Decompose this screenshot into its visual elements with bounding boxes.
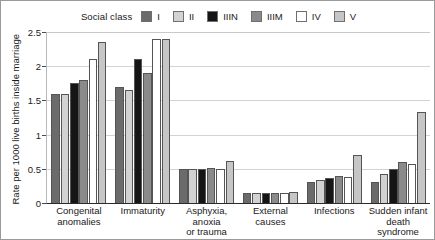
chart-legend: Social class I II IIIN IIIM IV V	[1, 11, 435, 22]
bar-iv[interactable]	[344, 177, 353, 203]
bar-ii[interactable]	[125, 90, 134, 203]
bar-group	[302, 32, 366, 203]
bar-v[interactable]	[417, 112, 426, 203]
bar-iiim[interactable]	[207, 168, 216, 203]
x-tick-label: Infections	[302, 206, 366, 238]
y-tick-label: 2.5	[28, 27, 41, 38]
y-tick-label: 2	[36, 61, 41, 72]
bar-ii[interactable]	[380, 174, 389, 203]
legend-swatch-iiin	[207, 11, 218, 22]
bar-iiim[interactable]	[271, 193, 280, 203]
legend-label-iiim: IIIM	[267, 11, 283, 22]
chart-figure: Social class I II IIIN IIIM IV V Rate pe…	[0, 0, 435, 240]
x-tick-label: Immaturity	[111, 206, 175, 238]
bar-iiin[interactable]	[134, 59, 143, 203]
bar-iv[interactable]	[408, 164, 417, 203]
x-tick-label: Asphyxia, anoxia or trauma	[175, 206, 239, 238]
bar-groups	[47, 32, 430, 203]
legend-title: Social class	[81, 11, 132, 22]
bar-group	[366, 32, 430, 203]
bar-iiim[interactable]	[398, 162, 407, 203]
legend-entry-iiim: IIIM	[251, 11, 283, 22]
bar-i[interactable]	[115, 87, 124, 203]
bar-i[interactable]	[371, 182, 380, 203]
y-tick-label: 1.5	[28, 95, 41, 106]
legend-label-iv: IV	[312, 11, 321, 22]
bar-ii[interactable]	[252, 193, 261, 203]
bar-v[interactable]	[289, 192, 298, 203]
bar-ii[interactable]	[316, 180, 325, 203]
legend-label-ii: II	[189, 11, 194, 22]
bar-iiin[interactable]	[389, 169, 398, 203]
legend-entry-v: V	[334, 11, 356, 22]
bar-iv[interactable]	[280, 193, 289, 203]
bar-v[interactable]	[226, 161, 235, 203]
bar-i[interactable]	[51, 94, 60, 203]
bar-iv[interactable]	[216, 169, 225, 203]
bar-group	[47, 32, 111, 203]
legend-label-v: V	[350, 11, 356, 22]
legend-label-iiin: IIIN	[223, 11, 238, 22]
y-tick-label: 0.5	[28, 163, 41, 174]
x-tick-label: Congenital anomalies	[47, 206, 111, 238]
bar-iiim[interactable]	[143, 73, 152, 203]
bar-iiim[interactable]	[335, 176, 344, 203]
bar-i[interactable]	[243, 193, 252, 203]
x-tick-label: Sudden infant death syndrome	[366, 206, 430, 238]
y-tick-label: 1	[36, 129, 41, 140]
x-axis-labels: Congenital anomaliesImmaturityAsphyxia, …	[47, 206, 430, 238]
legend-swatch-iv	[296, 11, 307, 22]
y-axis-ticks: 00.511.522.5	[1, 32, 47, 203]
x-tick-label: External causes	[238, 206, 302, 238]
bar-group	[111, 32, 175, 203]
bar-i[interactable]	[179, 169, 188, 203]
bar-iv[interactable]	[89, 59, 98, 203]
bar-group	[175, 32, 239, 203]
legend-entry-i: I	[141, 11, 160, 22]
y-tick-label: 0	[36, 198, 41, 209]
plot-area	[47, 32, 430, 203]
bar-ii[interactable]	[61, 94, 70, 203]
bar-v[interactable]	[162, 39, 171, 203]
bar-group	[238, 32, 302, 203]
bar-v[interactable]	[98, 42, 107, 203]
legend-swatch-iiim	[251, 11, 262, 22]
legend-swatch-ii	[173, 11, 184, 22]
legend-swatch-v	[334, 11, 345, 22]
legend-entry-iv: IV	[296, 11, 321, 22]
bar-iiin[interactable]	[262, 193, 271, 203]
bar-iiin[interactable]	[70, 83, 79, 203]
bar-ii[interactable]	[188, 169, 197, 203]
legend-entry-iiin: IIIN	[207, 11, 238, 22]
legend-label-i: I	[157, 11, 160, 22]
legend-entry-ii: II	[173, 11, 194, 22]
x-axis-baseline	[47, 203, 430, 204]
legend-swatch-i	[141, 11, 152, 22]
bar-iv[interactable]	[152, 39, 161, 203]
bar-iiim[interactable]	[79, 80, 88, 203]
bar-v[interactable]	[353, 155, 362, 203]
bar-i[interactable]	[307, 182, 316, 203]
bar-iiin[interactable]	[198, 169, 207, 203]
bar-iiin[interactable]	[325, 178, 334, 203]
